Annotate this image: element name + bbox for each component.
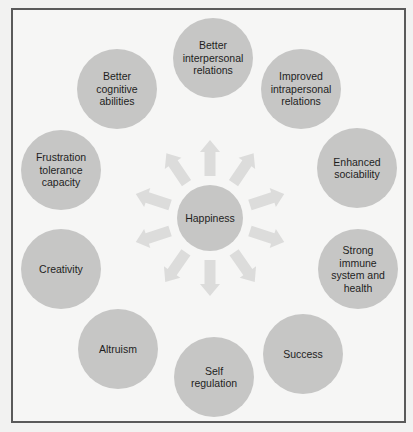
node-label: Strong immune system and health <box>331 244 385 294</box>
node-enhanced-sociability: Enhanced sociability <box>317 128 397 208</box>
node-better-interpersonal-relations: Better interpersonal relations <box>173 18 253 98</box>
center-node-happiness: Happiness <box>177 185 243 251</box>
node-frustration-tolerance-capacity: Frustration tolerance capacity <box>21 130 101 210</box>
node-label: Improved intrapersonal relations <box>271 70 332 108</box>
node-label: Altruism <box>99 343 137 356</box>
node-label: Self regulation <box>191 365 237 390</box>
node-label: Creativity <box>39 263 83 276</box>
node-self-regulation: Self regulation <box>174 337 254 417</box>
node-label: Better interpersonal relations <box>183 39 244 77</box>
node-better-cognitive-abilities: Better cognitive abilities <box>77 49 157 129</box>
node-improved-intrapersonal-relations: Improved intrapersonal relations <box>261 49 341 129</box>
center-node-label: Happiness <box>185 212 235 225</box>
node-creativity: Creativity <box>21 229 101 309</box>
node-strong-immune-system-and-health: Strong immune system and health <box>318 229 398 309</box>
node-altruism: Altruism <box>78 309 158 389</box>
node-label: Success <box>283 348 323 361</box>
node-label: Better cognitive abilities <box>96 70 137 108</box>
node-label: Enhanced sociability <box>333 156 380 181</box>
node-success: Success <box>263 314 343 394</box>
node-label: Frustration tolerance capacity <box>36 151 86 189</box>
